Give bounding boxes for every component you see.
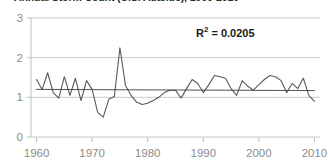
x-tick-label: 1970	[79, 147, 105, 159]
y-tick-label: 2	[17, 52, 23, 64]
r-squared-suffix: = 0.0205	[208, 27, 254, 39]
y-tick-label: 0	[17, 131, 23, 143]
plot-area: 0123196019701980199020002010	[0, 0, 328, 166]
r-squared-annotation: R2 = 0.0205	[196, 27, 255, 39]
r-squared-prefix: R	[196, 27, 204, 39]
x-tick-label: 1980	[135, 147, 161, 159]
x-tick-label: 1960	[24, 147, 50, 159]
chart-container: Annual Storm Count (U.S. Atlantic), 1960…	[0, 0, 328, 166]
x-tick-label: 2010	[302, 147, 328, 159]
y-tick-label: 1	[17, 91, 23, 103]
x-tick-label: 2000	[246, 147, 272, 159]
y-tick-label: 3	[17, 12, 23, 24]
x-tick-label: 1990	[190, 147, 216, 159]
